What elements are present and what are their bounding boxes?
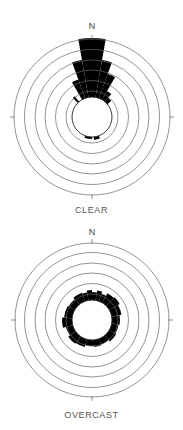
rose-chart-overcast (11, 239, 173, 401)
chart-title-overcast: OVERCAST (0, 410, 183, 420)
chart-title-clear: CLEAR (0, 205, 183, 215)
inner-circle (72, 97, 112, 137)
rose-chart-clear (10, 35, 174, 199)
inner-circle (72, 300, 112, 340)
rose-charts (0, 0, 183, 430)
north-label-clear: N (82, 21, 102, 31)
north-label-overcast: N (82, 227, 102, 237)
